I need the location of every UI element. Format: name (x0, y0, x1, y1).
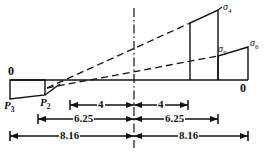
dimension-row-4 (70, 100, 188, 110)
p2-subscript: 2 (47, 102, 51, 111)
p3-base: P (4, 99, 11, 111)
sigma4-trapezoid (190, 10, 218, 80)
right-zero-label: 0 (240, 82, 246, 94)
p2-base: P (40, 96, 47, 108)
dimension-row-816 (10, 131, 248, 141)
sigma5-label: σ5 (218, 44, 226, 57)
dim-816-right-value: 8.16 (178, 130, 199, 141)
dim-816-left-value: 8.16 (59, 130, 80, 141)
dimension-row-625 (38, 114, 218, 124)
sigma6-label: σ6 (250, 38, 258, 51)
sigma5-subscript: 5 (223, 49, 227, 57)
dim-4-left-value: 4 (97, 99, 105, 110)
dim-4-right-value: 4 (157, 99, 165, 110)
p3-label: P3 (4, 100, 14, 114)
sigma4-subscript: 4 (228, 7, 232, 15)
p3-subscript: 3 (11, 105, 15, 114)
dim-625-left-value: 6.25 (73, 113, 94, 124)
dashed-lower-projection (47, 56, 218, 88)
dashed-upper-projection (47, 23, 190, 88)
p2-label: P2 (40, 97, 50, 111)
sigma4-leader (218, 7, 222, 10)
sigma6-subscript: 6 (255, 43, 259, 51)
stress-diagram-figure: 0 0 P3 P2 σ4 σ5 σ6 4 4 6.25 6.25 8.16 8.… (0, 0, 266, 155)
left-zero-label: 0 (8, 65, 14, 77)
sigma4-label: σ4 (223, 2, 231, 15)
dim-625-right-value: 6.25 (164, 113, 185, 124)
diagram-canvas (0, 0, 266, 155)
